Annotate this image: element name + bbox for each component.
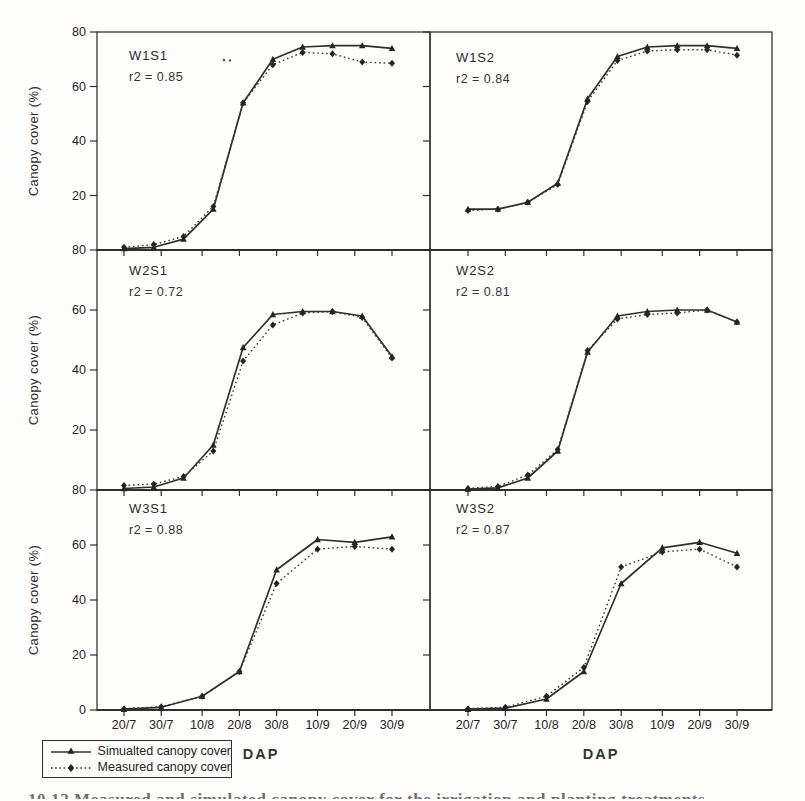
svg-text:60: 60 [72, 538, 86, 552]
svg-text:20/9: 20/9 [343, 718, 367, 732]
svg-text:80: 80 [72, 25, 86, 39]
diamond-marker [734, 52, 740, 59]
svg-text:60: 60 [72, 303, 86, 317]
diamond-marker [300, 310, 306, 317]
panel-r2: r2 = 0.81 [456, 285, 510, 299]
svg-text:30/7: 30/7 [149, 718, 173, 732]
panel-title: W2S2 [456, 263, 495, 278]
panel-label-w2s2: W2S2 r2 = 0.81 [456, 263, 510, 299]
svg-text:20/7: 20/7 [456, 718, 480, 732]
x-axis-title-left: DAP [231, 746, 291, 762]
legend-sample-dotted-diamond [49, 760, 92, 774]
panel-w2s2-series [465, 307, 741, 493]
svg-text:40: 40 [72, 363, 86, 377]
y-axis-title-row3: Canopy cover (%) [26, 515, 42, 685]
diamond-marker [359, 58, 365, 65]
diamond-marker [389, 355, 395, 362]
panel-r2: r2 = 0.87 [456, 523, 510, 537]
diamond-marker [300, 49, 306, 56]
x-axis-title-right: DAP [571, 746, 631, 762]
panel-label-w3s1: W3S1 r2 = 0.88 [129, 501, 183, 537]
diamond-marker [274, 580, 280, 587]
diamond-marker [555, 181, 561, 188]
svg-text:30/8: 30/8 [264, 718, 288, 732]
svg-text:20/8: 20/8 [227, 718, 251, 732]
svg-text:10/9: 10/9 [305, 718, 329, 732]
figure: 806040208060402080604020020/730/710/820/… [0, 0, 805, 801]
svg-text:40: 40 [72, 134, 86, 148]
panel-label-w1s2: W1S2 r2 = 0.84 [456, 50, 510, 86]
diamond-marker [240, 358, 246, 365]
y-axis-ticks: 8060402080604020806040200 [72, 25, 430, 717]
svg-text:80: 80 [72, 483, 86, 497]
diamond-marker [329, 50, 335, 57]
diamond-marker [465, 207, 471, 214]
panel-frames [97, 32, 772, 710]
diamond-marker [389, 546, 395, 553]
svg-text:30/7: 30/7 [493, 718, 517, 732]
svg-text:30/9: 30/9 [380, 718, 404, 732]
cropped-caption-text: 10.12 Measured and simulated canopy cove… [28, 790, 778, 799]
diamond-marker [525, 472, 531, 479]
svg-text:0: 0 [79, 703, 86, 717]
panel-label-w3s2: W3S2 r2 = 0.87 [456, 501, 510, 537]
svg-text:10/8: 10/8 [190, 718, 214, 732]
panel-r2: r2 = 0.85 [129, 70, 183, 84]
svg-text:40: 40 [72, 593, 86, 607]
svg-text:30/8: 30/8 [609, 718, 633, 732]
svg-text:20: 20 [72, 423, 86, 437]
svg-text:80: 80 [72, 243, 86, 257]
panel-title: W1S2 [456, 50, 495, 65]
legend-entry-measured: Measured canopy cover [49, 760, 231, 774]
diamond-marker [270, 322, 276, 329]
scan-artifact-dots [223, 59, 232, 62]
svg-text:20: 20 [72, 648, 86, 662]
legend-sample-solid-triangle [49, 744, 92, 758]
svg-text:20/7: 20/7 [112, 718, 136, 732]
panel-w2s1-series [121, 308, 396, 491]
y-axis-title-row2: Canopy cover (%) [26, 285, 42, 455]
chart-canvas: 806040208060402080604020020/730/710/820/… [0, 0, 805, 801]
diamond-marker [734, 564, 740, 571]
svg-text:30/9: 30/9 [725, 718, 749, 732]
svg-text:20/8: 20/8 [572, 718, 596, 732]
legend-box: Simualted canopy cover Measured canopy c… [42, 740, 232, 778]
panel-label-w2s1: W2S1 r2 = 0.72 [129, 263, 183, 299]
panel-w3s2-series [465, 539, 741, 712]
svg-text:10/8: 10/8 [534, 718, 558, 732]
panel-title: W3S2 [456, 501, 495, 516]
legend-entry-simulated: Simualted canopy cover [49, 744, 231, 758]
svg-text:60: 60 [72, 80, 86, 94]
panel-r2: r2 = 0.72 [129, 285, 183, 299]
legend-label-measured: Measured canopy cover [98, 760, 231, 774]
diamond-marker [618, 564, 624, 571]
panel-r2: r2 = 0.88 [129, 523, 183, 537]
panel-title: W3S1 [129, 501, 168, 516]
panel-title: W1S1 [129, 48, 168, 63]
legend-label-simulated: Simualted canopy cover [98, 744, 231, 758]
svg-text:10/9: 10/9 [650, 718, 674, 732]
panel-title: W2S1 [129, 263, 168, 278]
panel-w3s1-series [121, 533, 396, 712]
diamond-marker [389, 60, 395, 67]
svg-text:20: 20 [72, 189, 86, 203]
diamond-marker [697, 546, 703, 553]
y-axis-title-row1: Canopy cover (%) [26, 56, 42, 226]
panel-r2: r2 = 0.84 [456, 72, 510, 86]
panel-label-w1s1: W1S1 r2 = 0.85 [129, 48, 183, 84]
svg-text:20/9: 20/9 [687, 718, 711, 732]
